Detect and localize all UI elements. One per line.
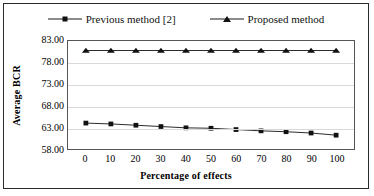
legend-key-square-icon [48,14,82,24]
data-point-square [334,133,339,138]
x-tick-label: 60 [231,153,241,165]
y-tick-label: 58.00 [42,145,65,155]
x-tick-label: 70 [256,153,266,165]
x-tick-label: 100 [330,153,345,165]
gridline [68,85,354,86]
legend-entry-proposed-method[interactable]: Proposed method [210,14,325,25]
y-axis-tick-labels: 58.0063.0068.0073.0078.0083.00 [24,34,66,156]
gridline [68,63,354,64]
series-layer [68,41,354,149]
data-point-square [109,122,114,127]
x-tick-label: 10 [105,153,115,165]
triangle-marker-icon [223,16,231,22]
legend-entry-previous-method[interactable]: Previous method [2] [48,14,176,25]
legend-key-triangle-icon [210,14,244,24]
y-tick-label: 63.00 [42,123,65,133]
x-axis-tick-labels: 0102030405060708090100 [67,153,355,167]
data-point-square [309,131,314,136]
gridline [68,107,354,108]
y-axis-title-text: Average BCR [11,65,22,126]
x-tick-label: 30 [156,153,166,165]
x-tick-label: 80 [282,153,292,165]
y-tick-label: 78.00 [42,57,65,67]
y-tick-label: 73.00 [42,79,65,89]
legend-label-proposed-method: Proposed method [248,14,325,25]
y-axis-title: Average BCR [9,40,23,150]
x-tick-label: 50 [206,153,216,165]
x-axis-title-text: Percentage of effects [140,170,232,181]
square-marker-icon [62,17,67,22]
data-point-square [83,121,88,126]
x-tick-label: 0 [83,153,88,165]
x-axis-title: Percentage of effects [4,170,368,181]
y-tick-label: 83.00 [42,35,65,45]
plot-area [67,40,355,150]
x-tick-label: 20 [130,153,140,165]
x-tick-label: 90 [307,153,317,165]
legend-label-previous-method: Previous method [2] [86,14,176,25]
data-point-square [284,129,289,134]
gridline [68,129,354,130]
chart-figure: Previous method [2] Proposed method Aver… [3,3,369,189]
y-tick-label: 68.00 [42,101,65,111]
chart-legend: Previous method [2] Proposed method [4,11,368,27]
data-point-square [134,123,139,128]
x-tick-label: 40 [181,153,191,165]
